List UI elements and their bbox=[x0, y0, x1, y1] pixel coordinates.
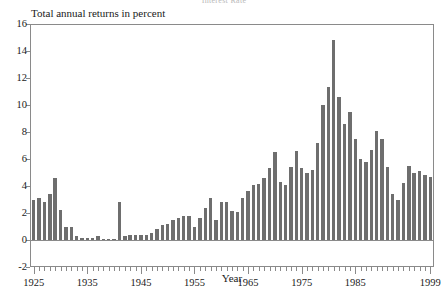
bar bbox=[37, 198, 40, 240]
bar bbox=[145, 235, 148, 240]
bar bbox=[166, 224, 169, 240]
y-tick-label: 14 bbox=[3, 46, 27, 57]
x-tick-minor bbox=[55, 267, 56, 271]
x-tick-minor bbox=[243, 267, 244, 271]
x-tick-minor bbox=[71, 267, 72, 271]
x-tick-minor bbox=[162, 267, 163, 271]
bar bbox=[59, 210, 62, 240]
x-tick-minor bbox=[334, 267, 335, 271]
bar bbox=[343, 124, 346, 240]
bar bbox=[391, 194, 394, 240]
x-tick-major bbox=[141, 267, 142, 274]
bar bbox=[359, 159, 362, 240]
x-tick-minor bbox=[398, 267, 399, 271]
x-tick-minor bbox=[414, 267, 415, 271]
bar bbox=[134, 235, 137, 240]
zero-baseline bbox=[30, 240, 434, 241]
x-tick-minor bbox=[339, 267, 340, 271]
y-tick-label: 2 bbox=[3, 208, 27, 219]
axis-left bbox=[30, 24, 31, 267]
bar bbox=[96, 236, 99, 240]
bar bbox=[407, 166, 410, 240]
bar bbox=[354, 139, 357, 240]
x-tick-minor bbox=[237, 267, 238, 271]
bar bbox=[332, 40, 335, 240]
bar bbox=[225, 202, 228, 240]
x-tick-minor bbox=[275, 267, 276, 271]
plot-area: -20246810121416 192519351945195519651975… bbox=[30, 24, 434, 267]
bar bbox=[316, 143, 319, 240]
x-tick-minor bbox=[178, 267, 179, 271]
bar bbox=[380, 139, 383, 240]
x-tick-label: 1999 bbox=[410, 278, 448, 289]
y-tick-label: 12 bbox=[3, 73, 27, 84]
y-tick-label: -2 bbox=[3, 262, 27, 273]
x-tick-minor bbox=[98, 267, 99, 271]
x-tick-major bbox=[87, 267, 88, 274]
x-tick-minor bbox=[403, 267, 404, 271]
x-tick-label: 1945 bbox=[121, 278, 161, 289]
bar bbox=[107, 239, 110, 240]
x-tick-minor bbox=[259, 267, 260, 271]
x-tick-minor bbox=[152, 267, 153, 271]
bar bbox=[128, 235, 131, 240]
y-tick-label: 6 bbox=[3, 154, 27, 165]
x-tick-minor bbox=[345, 267, 346, 271]
bar bbox=[402, 183, 405, 240]
bar bbox=[321, 105, 324, 240]
x-tick-minor bbox=[361, 267, 362, 271]
x-tick-minor bbox=[393, 267, 394, 271]
x-tick-minor bbox=[264, 267, 265, 271]
bar bbox=[75, 236, 78, 240]
chart-figure: Interest Rate Total annual returns in pe… bbox=[0, 0, 448, 302]
x-tick-minor bbox=[119, 267, 120, 271]
x-tick-minor bbox=[253, 267, 254, 271]
bar bbox=[80, 238, 83, 240]
bar bbox=[423, 175, 426, 240]
bar bbox=[70, 227, 73, 241]
bar bbox=[118, 202, 121, 240]
x-tick-minor bbox=[366, 267, 367, 271]
x-tick-minor bbox=[227, 267, 228, 271]
x-tick-minor bbox=[125, 267, 126, 271]
x-tick-minor bbox=[173, 267, 174, 271]
x-tick-minor bbox=[312, 267, 313, 271]
x-tick-minor bbox=[377, 267, 378, 271]
x-tick-label: 1935 bbox=[67, 278, 107, 289]
bar bbox=[230, 211, 233, 240]
bar bbox=[220, 202, 223, 240]
bar bbox=[375, 131, 378, 240]
x-tick-label: 1985 bbox=[335, 278, 375, 289]
x-tick-minor bbox=[286, 267, 287, 271]
x-tick-minor bbox=[39, 267, 40, 271]
bar bbox=[412, 173, 415, 241]
x-tick-label: 1955 bbox=[174, 278, 214, 289]
bar bbox=[273, 152, 276, 240]
x-tick-minor bbox=[136, 267, 137, 271]
bar bbox=[295, 151, 298, 240]
x-tick-minor bbox=[270, 267, 271, 271]
bar bbox=[364, 162, 367, 240]
x-tick-minor bbox=[350, 267, 351, 271]
x-tick-major bbox=[355, 267, 356, 274]
bar bbox=[311, 170, 314, 240]
x-tick-minor bbox=[82, 267, 83, 271]
x-tick-minor bbox=[184, 267, 185, 271]
x-tick-major bbox=[34, 267, 35, 274]
x-tick-label: 1965 bbox=[228, 278, 268, 289]
bar bbox=[386, 167, 389, 240]
x-tick-major bbox=[194, 267, 195, 274]
bar bbox=[161, 225, 164, 240]
y-tick-label: 8 bbox=[3, 127, 27, 138]
x-tick-minor bbox=[232, 267, 233, 271]
bar bbox=[252, 185, 255, 240]
x-tick-major bbox=[248, 267, 249, 274]
x-tick-minor bbox=[130, 267, 131, 271]
bar bbox=[246, 191, 249, 240]
x-tick-minor bbox=[146, 267, 147, 271]
bar bbox=[214, 220, 217, 240]
bar bbox=[182, 216, 185, 240]
bar bbox=[187, 216, 190, 240]
y-tick-label: 16 bbox=[3, 19, 27, 30]
bar bbox=[198, 218, 201, 240]
